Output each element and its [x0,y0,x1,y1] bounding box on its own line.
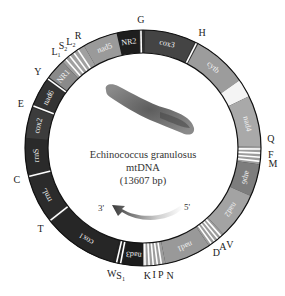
gene-label-nad3: nad3 [126,250,142,260]
trna-label-a: A [219,241,227,252]
trna-label-e: E [18,98,24,109]
gene-label-rrns: rrnS [31,148,41,162]
trna-label-g: G [137,14,144,25]
trna-label-y: Y [34,66,41,77]
trna-marker [238,152,261,153]
trna-label-s1: S1 [116,270,125,282]
trna-label-m: M [269,158,278,169]
mtdna-circular-map: NR2cox3cytbnad4atp6nad2nad1nad3cox1rrnLr… [0,0,285,296]
trna-label-h: H [198,27,205,38]
ring-inner-edge [48,53,238,243]
trna-label-p: P [158,269,164,280]
trna-label-k: K [144,270,152,281]
species-name: Echinococcus granulosus [90,149,196,160]
strand-5prime-label: 5' [184,202,191,212]
trna-label-v: V [226,239,234,250]
trna-label-d: D [213,247,220,258]
trna-label-t: T [38,223,44,234]
trna-label-w: W [107,268,117,279]
trna-label-i: I [152,269,155,280]
trna-label-r: R [75,30,82,41]
trna-label-c: C [14,174,21,185]
trna-label-q: Q [267,133,275,144]
trna-label-n: N [166,270,173,281]
strand-3prime-label: 3' [98,203,105,213]
molecule-label: mtDNA [126,162,160,173]
genome-size: (13607 bp) [120,175,167,187]
